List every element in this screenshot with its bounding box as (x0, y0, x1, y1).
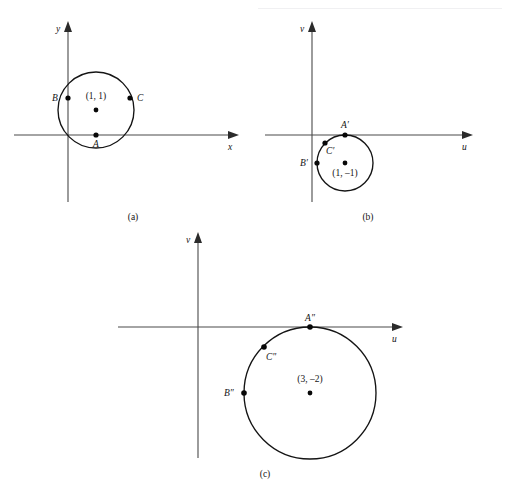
panel-a-x-axis-arrow (228, 131, 239, 139)
panel-a-center-label: (1, 1) (86, 91, 107, 102)
panel-a-point-C-label: C (137, 93, 144, 103)
panel-c: u v (3, –2) A″ B″ C″ (c) (118, 232, 403, 480)
panel-b-point-C-prime-dot (322, 140, 327, 145)
panel-c-point-C-double-prime-dot (261, 344, 267, 350)
panel-c-point-C-double-prime-label: C″ (266, 352, 277, 362)
panel-c-v-axis-label: v (186, 235, 191, 245)
panel-c-v-axis-arrow (194, 232, 202, 243)
panel-b-center-dot (343, 161, 348, 166)
panel-a-point-A-label: A (92, 139, 99, 149)
panel-a: x y (1, 1) A B C (a) (14, 21, 239, 223)
panel-a-y-axis-label: y (55, 24, 61, 34)
panel-c-point-A-double-prime-dot (307, 324, 313, 330)
panel-b-u-axis-label: u (462, 142, 467, 152)
figure-canvas: x y (1, 1) A B C (a) (0, 0, 507, 493)
panel-c-point-B-double-prime-dot (241, 390, 247, 396)
panel-a-point-C-dot (127, 95, 132, 100)
panel-b-point-C-prime-label: C′ (326, 146, 335, 156)
panel-c-point-B-double-prime-label: B″ (224, 388, 235, 398)
panel-a-y-axis-arrow (64, 21, 72, 32)
panel-b-center-label: (1, –1) (332, 168, 357, 179)
panel-c-point-A-double-prime-label: A″ (304, 313, 316, 323)
panel-a-x-axis-label: x (227, 142, 233, 152)
panel-a-caption: (a) (128, 212, 139, 223)
panel-b-point-B-prime-dot (314, 160, 319, 165)
panel-b-v-axis-label: v (300, 24, 305, 34)
panel-b: u v (1, –1) A′ B′ C′ (b) (265, 21, 473, 223)
panel-b-v-axis-arrow (308, 21, 316, 32)
panel-c-u-axis-label: u (392, 334, 397, 344)
panel-c-center-dot (308, 391, 313, 396)
panel-c-u-axis-arrow (392, 323, 403, 331)
panel-c-caption: (c) (260, 469, 271, 480)
figure-root: x y (1, 1) A B C (a) (0, 0, 507, 493)
panel-c-center-label: (3, –2) (297, 374, 322, 385)
panel-a-point-B-label: B (52, 93, 58, 103)
panel-b-caption: (b) (362, 212, 373, 223)
panel-b-point-B-prime-label: B′ (300, 158, 309, 168)
panel-a-point-A-dot (93, 132, 98, 137)
panel-a-center-dot (94, 108, 99, 113)
panel-a-point-B-dot (65, 95, 70, 100)
panel-b-point-A-prime-dot (342, 132, 347, 137)
panel-b-u-axis-arrow (462, 131, 473, 139)
panel-b-point-A-prime-label: A′ (340, 120, 350, 130)
